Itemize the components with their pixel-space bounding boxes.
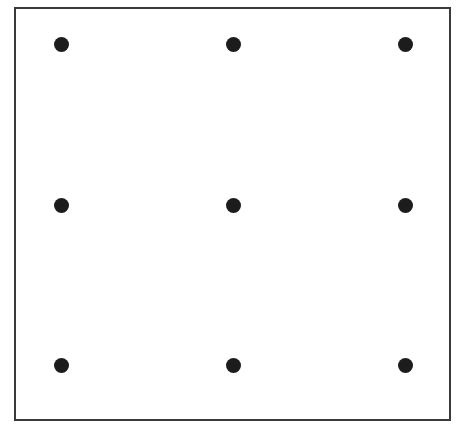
dot-r2c2 xyxy=(226,198,241,213)
dot-r1c3 xyxy=(398,37,413,52)
dot-r2c3 xyxy=(398,198,413,213)
dot-r3c1 xyxy=(54,358,69,373)
dot-r2c1 xyxy=(54,198,69,213)
dot-r3c2 xyxy=(226,358,241,373)
figure-canvas xyxy=(0,0,463,430)
dot-r1c2 xyxy=(226,37,241,52)
dot-r1c1 xyxy=(54,37,69,52)
dot-r3c3 xyxy=(398,358,413,373)
